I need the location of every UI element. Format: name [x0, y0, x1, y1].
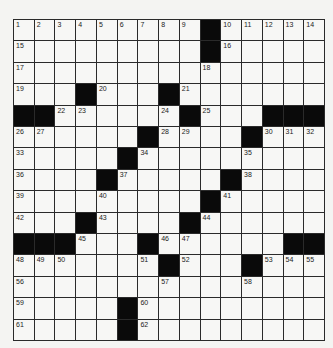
grid-cell[interactable]: 4: [76, 20, 96, 40]
grid-cell[interactable]: [97, 41, 117, 61]
grid-cell[interactable]: [284, 213, 304, 233]
grid-cell[interactable]: [55, 63, 75, 83]
grid-cell[interactable]: 23: [76, 106, 96, 126]
grid-cell[interactable]: 41: [221, 191, 241, 211]
grid-cell[interactable]: [242, 84, 262, 104]
grid-cell[interactable]: 5: [97, 20, 117, 40]
grid-cell[interactable]: [118, 234, 138, 254]
grid-cell[interactable]: 33: [14, 148, 34, 168]
grid-cell[interactable]: [242, 191, 262, 211]
grid-cell[interactable]: [263, 191, 283, 211]
grid-cell[interactable]: [304, 84, 324, 104]
grid-cell[interactable]: [159, 191, 179, 211]
grid-cell[interactable]: 36: [14, 170, 34, 190]
grid-cell[interactable]: [304, 170, 324, 190]
grid-cell[interactable]: [118, 106, 138, 126]
grid-cell[interactable]: [138, 277, 158, 297]
grid-cell[interactable]: [76, 320, 96, 340]
grid-cell[interactable]: [221, 106, 241, 126]
grid-cell[interactable]: 59: [14, 298, 34, 318]
grid-cell[interactable]: 61: [14, 320, 34, 340]
grid-cell[interactable]: [159, 298, 179, 318]
grid-cell[interactable]: [242, 106, 262, 126]
grid-cell[interactable]: 62: [138, 320, 158, 340]
grid-cell[interactable]: [180, 277, 200, 297]
grid-cell[interactable]: 60: [138, 298, 158, 318]
grid-cell[interactable]: [118, 255, 138, 275]
grid-cell[interactable]: [55, 191, 75, 211]
grid-cell[interactable]: [76, 277, 96, 297]
grid-cell[interactable]: [159, 170, 179, 190]
grid-cell[interactable]: 6: [118, 20, 138, 40]
grid-cell[interactable]: [201, 234, 221, 254]
grid-cell[interactable]: 55: [304, 255, 324, 275]
grid-cell[interactable]: 58: [242, 277, 262, 297]
grid-cell[interactable]: [263, 84, 283, 104]
grid-cell[interactable]: [242, 63, 262, 83]
grid-cell[interactable]: 35: [242, 148, 262, 168]
grid-cell[interactable]: [55, 41, 75, 61]
grid-cell[interactable]: 2: [35, 20, 55, 40]
grid-cell[interactable]: [242, 41, 262, 61]
grid-cell[interactable]: [97, 298, 117, 318]
grid-cell[interactable]: [76, 191, 96, 211]
grid-cell[interactable]: [55, 320, 75, 340]
grid-cell[interactable]: 18: [201, 63, 221, 83]
grid-cell[interactable]: [263, 234, 283, 254]
grid-cell[interactable]: [118, 63, 138, 83]
grid-cell[interactable]: [284, 63, 304, 83]
grid-cell[interactable]: 27: [35, 127, 55, 147]
grid-cell[interactable]: [221, 213, 241, 233]
grid-cell[interactable]: [242, 234, 262, 254]
grid-cell[interactable]: [180, 63, 200, 83]
grid-cell[interactable]: [284, 41, 304, 61]
grid-cell[interactable]: [35, 320, 55, 340]
grid-cell[interactable]: 46: [159, 234, 179, 254]
grid-cell[interactable]: [76, 127, 96, 147]
grid-cell[interactable]: [284, 320, 304, 340]
grid-cell[interactable]: 9: [180, 20, 200, 40]
grid-cell[interactable]: [201, 298, 221, 318]
grid-cell[interactable]: 10: [221, 20, 241, 40]
grid-cell[interactable]: [138, 213, 158, 233]
grid-cell[interactable]: [35, 41, 55, 61]
grid-cell[interactable]: 19: [14, 84, 34, 104]
grid-cell[interactable]: [201, 320, 221, 340]
grid-cell[interactable]: [118, 41, 138, 61]
grid-cell[interactable]: 21: [180, 84, 200, 104]
grid-cell[interactable]: 40: [97, 191, 117, 211]
grid-cell[interactable]: [284, 148, 304, 168]
grid-cell[interactable]: [263, 148, 283, 168]
grid-cell[interactable]: [304, 63, 324, 83]
grid-cell[interactable]: [76, 170, 96, 190]
grid-cell[interactable]: 15: [14, 41, 34, 61]
grid-cell[interactable]: 31: [284, 127, 304, 147]
grid-cell[interactable]: [118, 213, 138, 233]
grid-cell[interactable]: [201, 127, 221, 147]
grid-cell[interactable]: 53: [263, 255, 283, 275]
grid-cell[interactable]: [97, 255, 117, 275]
grid-cell[interactable]: 24: [159, 106, 179, 126]
grid-cell[interactable]: [35, 298, 55, 318]
grid-cell[interactable]: [159, 63, 179, 83]
grid-cell[interactable]: [97, 106, 117, 126]
grid-cell[interactable]: 39: [14, 191, 34, 211]
grid-cell[interactable]: [55, 148, 75, 168]
grid-cell[interactable]: [76, 63, 96, 83]
grid-cell[interactable]: [138, 63, 158, 83]
grid-cell[interactable]: 16: [221, 41, 241, 61]
grid-cell[interactable]: [201, 84, 221, 104]
grid-cell[interactable]: 50: [55, 255, 75, 275]
grid-cell[interactable]: [284, 191, 304, 211]
grid-cell[interactable]: [221, 234, 241, 254]
grid-cell[interactable]: [221, 298, 241, 318]
grid-cell[interactable]: 14: [304, 20, 324, 40]
grid-cell[interactable]: [221, 320, 241, 340]
grid-cell[interactable]: [97, 277, 117, 297]
grid-cell[interactable]: 17: [14, 63, 34, 83]
grid-cell[interactable]: 7: [138, 20, 158, 40]
grid-cell[interactable]: [159, 41, 179, 61]
grid-cell[interactable]: [138, 84, 158, 104]
grid-cell[interactable]: 34: [138, 148, 158, 168]
grid-cell[interactable]: [138, 41, 158, 61]
